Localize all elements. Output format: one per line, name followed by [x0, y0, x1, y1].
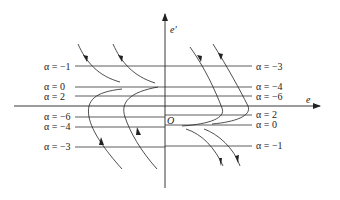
trajectory-upper-right-2	[212, 44, 249, 124]
right-label-alpha-neg3: α = −3	[256, 61, 283, 72]
arrow-icon	[136, 127, 141, 135]
left-label-alpha-neg4: α = −4	[44, 121, 71, 132]
trajectory-upper-left-1	[78, 44, 120, 82]
trajectory-upper-left-2	[113, 44, 155, 83]
trajectory-lower-right-2	[204, 129, 240, 166]
origin-label: O	[167, 115, 174, 126]
right-label-alpha-neg1: α = −1	[256, 140, 283, 151]
phase-plane-diagram: e' e O α = −1 α = 0 α = 2 α = −6 α = −4 …	[0, 0, 340, 200]
right-label-alpha-0: α = 0	[256, 119, 277, 130]
trajectory-middle-left-1	[88, 89, 122, 169]
trajectory-middle-left-2	[124, 87, 158, 169]
axis-label-e: e	[306, 94, 311, 105]
left-label-alpha-neg1: α = −1	[44, 61, 71, 72]
axis-label-e-prime: e'	[170, 24, 177, 35]
left-label-alpha-2: α = 2	[44, 91, 65, 102]
trajectory-lower-right-1	[186, 129, 223, 166]
trajectory-upper-right-1	[182, 47, 223, 126]
left-label-alpha-neg3: α = −3	[44, 141, 71, 152]
arrow-icon	[118, 55, 123, 62]
right-label-alpha-neg6: α = −6	[256, 91, 283, 102]
arrow-icon	[83, 55, 88, 62]
